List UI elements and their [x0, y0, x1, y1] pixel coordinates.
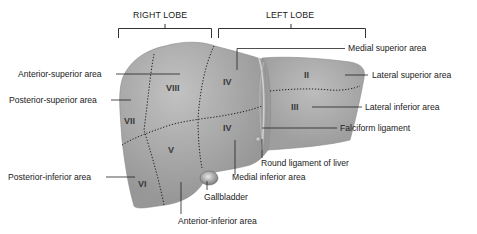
medial-superior-area-label: Medial superior area [348, 44, 426, 53]
segment-v-label: V [168, 146, 174, 155]
lateral-superior-area-label: Lateral superior area [372, 71, 451, 80]
posterior-superior-area-label: Posterior-superior area [9, 96, 97, 105]
segment-iii-label: III [291, 103, 299, 112]
segment-iv-upper-label: IV [223, 78, 232, 87]
anterior-inferior-area-label: Anterior-inferior area [178, 217, 257, 226]
segment-viii-label: VIII [166, 84, 180, 93]
left-lobe-heading: LEFT LOBE [266, 11, 314, 20]
right-lobe-bracket [119, 24, 212, 38]
liver-segments-diagram: RIGHT LOBE LEFT LOBE VIII IV VII IV V VI… [0, 0, 477, 234]
medial-inferior-area-label: Medial inferior area [232, 173, 306, 182]
anterior-superior-area-label: Anterior-superior area [18, 70, 102, 79]
segment-ii-label: II [304, 71, 309, 80]
left-lobe-bracket [219, 24, 366, 38]
round-ligament-label: Round ligament of liver [261, 159, 349, 168]
right-lobe-heading: RIGHT LOBE [133, 11, 187, 20]
segment-vii-label: VII [124, 117, 135, 126]
segment-vi-label: VI [138, 180, 147, 189]
posterior-inferior-area-label: Posterior-inferior area [8, 173, 91, 182]
falciform-ligament-label: Falciform ligament [340, 124, 410, 133]
gallbladder-label: Gallbladder [204, 193, 248, 202]
gallbladder-shape [200, 171, 218, 185]
left-lateral-lobe [262, 57, 364, 150]
lateral-inferior-area-label: Lateral inferior area [365, 103, 440, 112]
round-ligament-stump [256, 137, 260, 141]
segment-iv-lower-label: IV [223, 124, 232, 133]
